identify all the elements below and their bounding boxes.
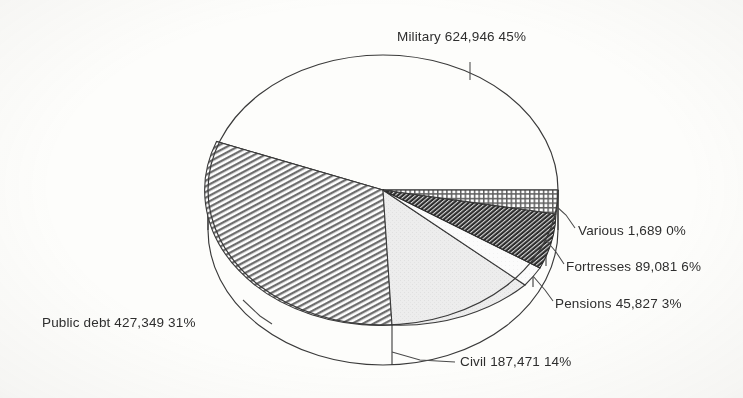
pie-chart-canvas — [0, 0, 743, 398]
pie-chart-figure: Military 624,946 45% Various 1,689 0% Fo… — [0, 0, 743, 398]
slice-label-fortresses: Fortresses 89,081 6% — [566, 260, 701, 274]
slice-label-military: Military 624,946 45% — [397, 30, 526, 44]
slice-label-public-debt: Public debt 427,349 31% — [42, 316, 196, 330]
leader-line-various — [556, 206, 575, 228]
slice-label-various: Various 1,689 0% — [578, 224, 686, 238]
slice-label-pensions: Pensions 45,827 3% — [555, 297, 682, 311]
slice-label-civil: Civil 187,471 14% — [460, 355, 571, 369]
